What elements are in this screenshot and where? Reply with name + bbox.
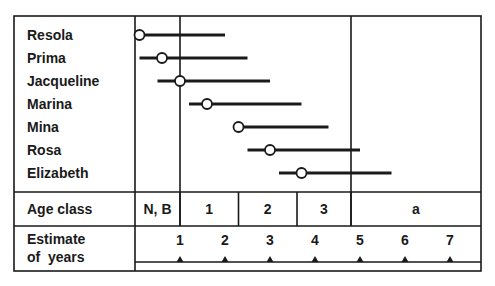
individual-name: Resola — [27, 27, 73, 43]
estimate-point-marker — [135, 30, 145, 40]
year-tick-marker-icon — [357, 256, 364, 262]
year-tick-label: 1 — [176, 232, 184, 248]
estimate-point-marker — [175, 76, 185, 86]
year-tick-label: 5 — [356, 232, 364, 248]
age-class-cell: 2 — [264, 201, 272, 217]
year-tick-marker-icon — [312, 256, 319, 262]
age-estimate-chart: ResolaPrimaJacquelineMarinaMinaRosaEliza… — [0, 0, 495, 286]
year-tick-label: 6 — [401, 232, 409, 248]
estimate-point-marker — [234, 122, 244, 132]
year-tick-label: 7 — [446, 232, 454, 248]
year-tick-marker-icon — [402, 256, 409, 262]
age-class-cell: a — [412, 201, 420, 217]
year-tick-marker-icon — [447, 256, 454, 262]
age-class-label: Age class — [27, 201, 93, 217]
estimate-label-line2: of years — [27, 249, 85, 265]
individual-name: Marina — [27, 96, 72, 112]
year-tick-label: 3 — [266, 232, 274, 248]
estimate-point-marker — [202, 99, 212, 109]
individual-names: ResolaPrimaJacquelineMarinaMinaRosaEliza… — [27, 27, 100, 181]
individual-name: Prima — [27, 50, 66, 66]
age-class-cell: 3 — [320, 201, 328, 217]
estimate-point-marker — [157, 53, 167, 63]
individual-name: Jacqueline — [27, 73, 100, 89]
year-tick-label: 2 — [221, 232, 229, 248]
year-tick-marker-icon — [177, 256, 184, 262]
estimate-point-marker — [265, 145, 275, 155]
individual-name: Mina — [27, 119, 59, 135]
year-axis: 1234567 — [176, 232, 454, 262]
year-tick-label: 4 — [311, 232, 319, 248]
age-class-cell: N, B — [144, 201, 172, 217]
individual-name: Elizabeth — [27, 165, 88, 181]
year-tick-marker-icon — [222, 256, 229, 262]
estimate-label-line1: Estimate — [27, 231, 86, 247]
individual-name: Rosa — [27, 142, 61, 158]
estimate-point-marker — [297, 168, 307, 178]
plot-area — [135, 16, 392, 226]
year-tick-marker-icon — [267, 256, 274, 262]
age-class-row: N, B123a — [144, 192, 421, 226]
age-class-cell: 1 — [205, 201, 213, 217]
